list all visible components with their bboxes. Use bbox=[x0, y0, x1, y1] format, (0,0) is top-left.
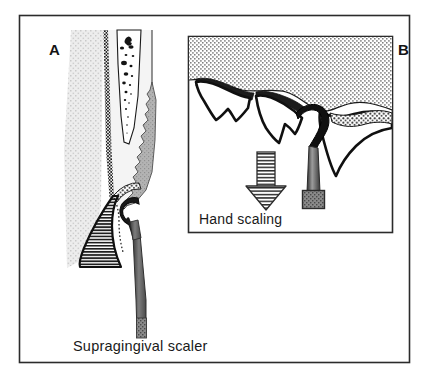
dental-scaling-figure: A Supragingival scaler bbox=[0, 0, 434, 384]
scaler-handle-end bbox=[137, 318, 147, 338]
figure-canvas: A Supragingival scaler bbox=[0, 0, 434, 384]
arrow-shaft bbox=[257, 152, 275, 187]
instrument-handle bbox=[303, 191, 325, 209]
panel-b-letter: B bbox=[398, 41, 409, 58]
curette-shank bbox=[307, 146, 320, 192]
panel-a-letter: A bbox=[49, 41, 60, 58]
panel-a-caption: Supragingival scaler bbox=[73, 338, 208, 354]
panel-b-caption: Hand scaling bbox=[199, 211, 282, 227]
